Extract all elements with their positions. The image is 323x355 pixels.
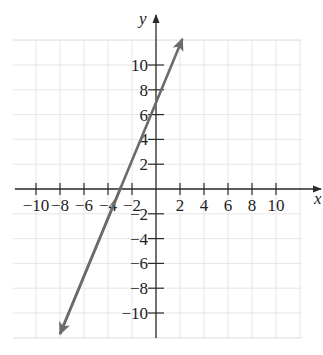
x-tick-label: 6 bbox=[224, 196, 233, 215]
y-tick-label: −4 bbox=[130, 230, 149, 249]
x-tick-label: −8 bbox=[51, 196, 69, 215]
data-series bbox=[60, 39, 182, 334]
y-axis-label: y bbox=[137, 9, 147, 28]
x-tick-label: 8 bbox=[248, 196, 257, 215]
y-tick-label: 8 bbox=[140, 81, 149, 100]
y-tick-label: −8 bbox=[130, 279, 148, 298]
x-tick-label: 10 bbox=[268, 196, 285, 215]
y-tick-label: 2 bbox=[140, 155, 149, 174]
y-tick-label: −6 bbox=[130, 254, 148, 273]
x-axis-label: x bbox=[313, 189, 322, 208]
y-tick-label: 10 bbox=[131, 56, 148, 75]
coordinate-plane: −10−8−6−4−2246810108642−2−4−6−8−10 x y bbox=[0, 0, 323, 355]
x-tick-label: −6 bbox=[75, 196, 93, 215]
y-tick-label: −2 bbox=[130, 205, 148, 224]
x-tick-label: −10 bbox=[23, 196, 50, 215]
x-tick-label: 4 bbox=[200, 196, 209, 215]
axes bbox=[15, 15, 321, 338]
x-tick-label: 2 bbox=[176, 196, 185, 215]
y-tick-label: −10 bbox=[121, 304, 148, 323]
